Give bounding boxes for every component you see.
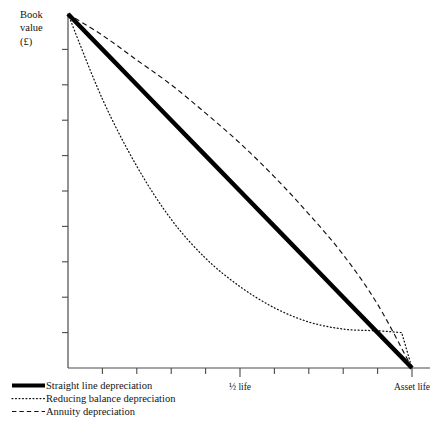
depreciation-chart-figure: Book value (£) ½ lifeAsset life Straight… [0, 0, 442, 435]
plot-series [68, 14, 412, 368]
y-axis-title-line-1: Book [20, 9, 44, 20]
legend-item-straight-line: Straight line depreciation [12, 380, 153, 391]
legend-label-annuity: Annuity depreciation [46, 406, 136, 417]
x-axis-tick-label: ½ life [229, 382, 251, 392]
legend: Straight line depreciation Reducing bala… [12, 380, 176, 417]
y-axis-ticks [62, 49, 68, 332]
chart-svg: Book value (£) ½ lifeAsset life Straight… [0, 0, 442, 435]
y-axis-title: Book value (£) [20, 9, 44, 48]
y-axis-title-line-3: (£) [20, 36, 33, 48]
legend-label-reducing-balance: Reducing balance depreciation [46, 393, 176, 404]
y-axis-title-line-2: value [20, 22, 43, 33]
legend-label-straight-line: Straight line depreciation [46, 380, 153, 391]
x-axis-tick-labels: ½ lifeAsset life [229, 382, 430, 392]
x-axis-ticks [102, 368, 412, 377]
series-straight-line-depreciation [68, 14, 412, 368]
x-axis-tick-label: Asset life [394, 382, 430, 392]
legend-item-annuity: Annuity depreciation [12, 406, 136, 417]
legend-item-reducing-balance: Reducing balance depreciation [12, 393, 176, 404]
